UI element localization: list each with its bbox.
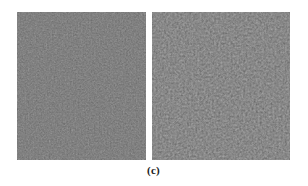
left-noise-image xyxy=(17,12,146,160)
right-noise-texture xyxy=(152,12,290,160)
figure-caption: (c) xyxy=(17,163,290,177)
right-noise-image xyxy=(152,12,290,160)
left-noise-texture xyxy=(17,12,146,160)
left-noise-canvas xyxy=(17,12,146,160)
figure-panel-c: (c) xyxy=(0,0,308,186)
right-noise-canvas xyxy=(152,12,290,160)
